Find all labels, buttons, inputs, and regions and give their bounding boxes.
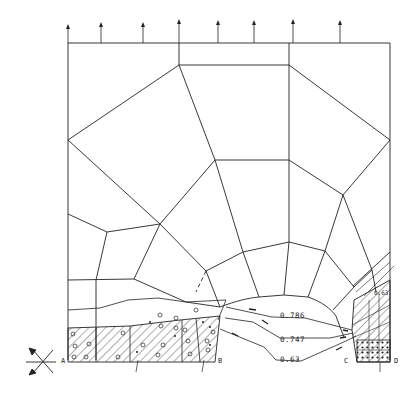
damage-zone-left	[68, 298, 226, 372]
outer-frame	[68, 43, 390, 360]
support-symbol	[26, 348, 56, 375]
contour-label-063: 0.63	[280, 356, 300, 364]
fem-mesh-diagram	[0, 0, 419, 397]
point-c-label: C	[344, 358, 348, 365]
point-b-label: B	[218, 358, 222, 365]
load-arrows	[66, 19, 342, 43]
damage-zone-right	[352, 262, 394, 372]
zone-label-063: 0.63	[374, 290, 388, 296]
contour-label-0747: 0.747	[280, 336, 305, 344]
contour-label-0786: 0.786	[280, 312, 305, 320]
point-a-label: A	[61, 358, 65, 365]
point-d-label: D	[394, 358, 398, 365]
